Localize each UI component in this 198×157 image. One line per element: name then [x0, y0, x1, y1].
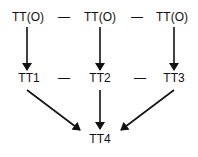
separator-top-1: — [58, 10, 70, 24]
separator-mid-2: — [134, 71, 146, 85]
diagram-canvas: TT(O) — TT(O) — TT(O) TT1 — TT2 — TT3 TT… [0, 0, 198, 157]
arrow-tt1-to-tt4 [27, 90, 80, 130]
node-tt2: TT2 [89, 71, 111, 85]
node-tt4: TT4 [89, 132, 111, 146]
node-tto-center: TT(O) [84, 10, 116, 24]
node-tt1: TT1 [18, 71, 40, 85]
separator-mid-1: — [58, 71, 70, 85]
node-tto-right: TT(O) [156, 10, 188, 24]
node-tto-left: TT(O) [12, 10, 44, 24]
node-tt3: TT3 [163, 71, 185, 85]
separator-top-2: — [131, 10, 143, 24]
arrow-tt3-to-tt4 [121, 90, 174, 130]
